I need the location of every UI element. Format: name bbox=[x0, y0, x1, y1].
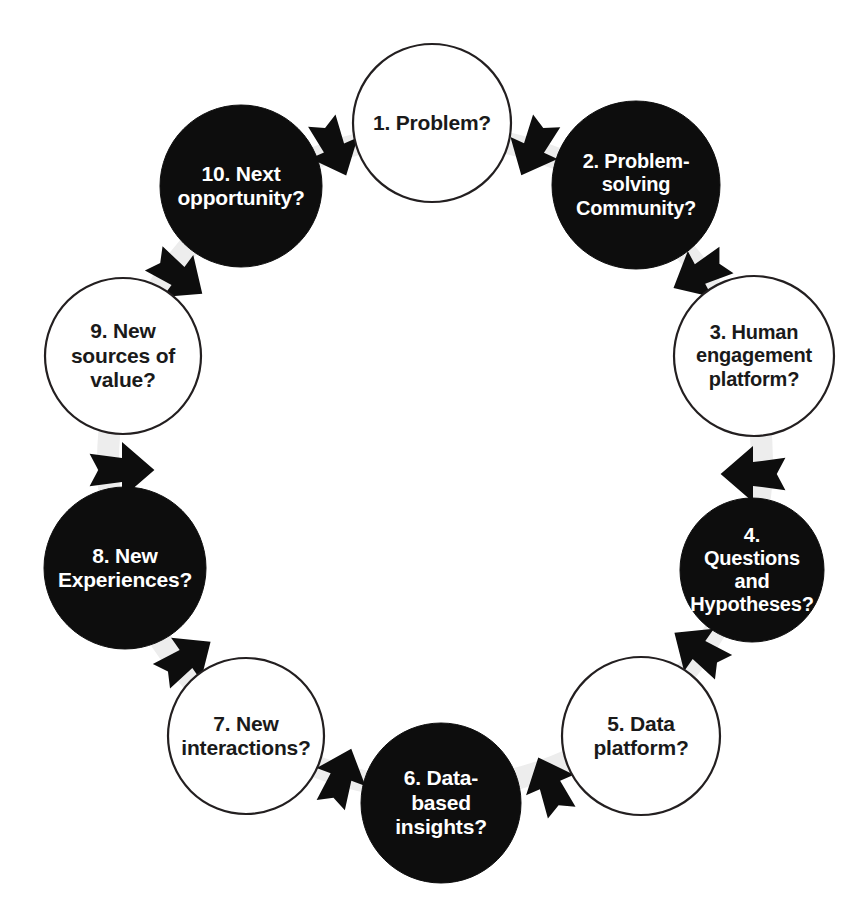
node-4[interactable] bbox=[680, 498, 824, 642]
node-2[interactable] bbox=[552, 101, 720, 269]
node-3[interactable] bbox=[674, 276, 834, 436]
diagram-canvas: 1. Problem?2. Problem- solving Community… bbox=[0, 0, 865, 920]
node-7[interactable] bbox=[168, 658, 324, 814]
node-5[interactable] bbox=[562, 657, 720, 815]
node-6[interactable] bbox=[361, 723, 521, 883]
node-10[interactable] bbox=[160, 105, 322, 267]
node-9[interactable] bbox=[45, 278, 201, 434]
node-1[interactable] bbox=[353, 44, 511, 202]
node-8[interactable] bbox=[44, 487, 206, 649]
